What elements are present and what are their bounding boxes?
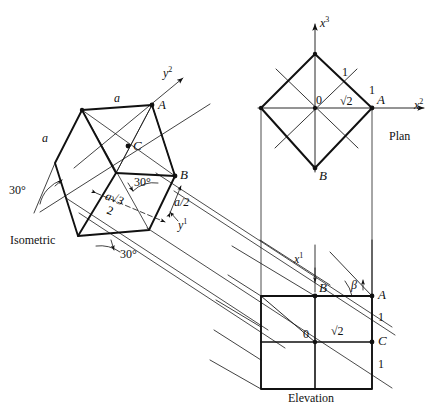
vertex-A-dot: [150, 103, 155, 108]
cube-face-diagonals: [82, 105, 175, 230]
iso-angle-bottom-label: 30°: [120, 248, 137, 260]
elevation-axis-x1-superscript: 1: [299, 251, 303, 260]
plan-view-title: Plan: [389, 130, 410, 142]
angle-arc-bottom: [96, 246, 120, 252]
vertex-C-dot: [126, 144, 131, 149]
elevation-unit-upper-label: 1: [378, 311, 384, 323]
elevation-axis-x1-label: x1: [294, 252, 303, 265]
axis-y2-line: [74, 78, 183, 168]
elevation-view-title: Elevation: [288, 392, 334, 404]
plan-axis-x2-label: x2: [414, 98, 423, 111]
iso-dim-a-half-label: a/2: [174, 196, 189, 208]
elevation-vertex-C-dot: [370, 340, 375, 345]
plan-unit-right-label: 1: [369, 84, 375, 96]
elevation-origin-label: 0: [303, 328, 309, 340]
plan-view: [258, 24, 424, 296]
iso-vertex-C-label: C: [133, 139, 142, 152]
elevation-origin-dot: [313, 340, 317, 344]
iso-axis-y1-superscript: 1: [183, 217, 187, 226]
elevation-vertex-A-label: A: [378, 288, 386, 301]
elevation-vertex-B-label: B: [319, 281, 327, 294]
elevation-unit-lower-label: 1: [378, 358, 384, 370]
elevation-beta-label: β: [351, 279, 357, 291]
plan-axis-x3-label: x3: [320, 16, 329, 29]
iso-axis-y2-label: y2: [163, 66, 172, 79]
plan-vertex-A-label: A: [377, 93, 385, 106]
elevation-vertex-C-label: C: [378, 334, 387, 347]
elevation-vertex-A-dot: [370, 294, 375, 299]
figure-canvas: a a A B C 30° 30° 30° a/2 a√3 2 y2 y1 Is…: [0, 0, 447, 413]
iso-edge-a-left-label: a: [42, 132, 48, 144]
plan-diagonal-label: √2: [340, 95, 353, 107]
elevation-vertex-B-dot: [313, 294, 318, 299]
iso-axis-y2-superscript: 2: [168, 65, 172, 74]
elevation-projection-rays: [210, 240, 330, 389]
iso-angle-left-label: 30°: [9, 184, 26, 196]
isometric-view-title: Isometric: [10, 234, 55, 246]
plan-unit-upper-label: 1: [342, 66, 348, 78]
plan-vertex-A-dot: [370, 106, 375, 111]
plan-drop-lines: [261, 108, 372, 296]
iso-axis-y1-label: y1: [178, 218, 187, 231]
iso-vertex-A-label: A: [158, 98, 166, 111]
angle-arc-arrows: [55, 180, 133, 250]
plan-axis-x3-superscript: 3: [325, 15, 329, 24]
plan-vertex-B-label: B: [319, 169, 327, 182]
iso-edge-a-top-label: a: [114, 92, 120, 104]
iso-vertex-B-label: B: [180, 168, 188, 181]
y1-leader: [170, 212, 178, 221]
iso-angle-middle-label: 30°: [134, 176, 151, 188]
elevation-diagonal-label: √2: [331, 325, 344, 337]
plan-vertex-B-dot: [313, 166, 318, 171]
plan-axis-x2-superscript: 2: [419, 97, 423, 106]
plan-origin-label: 0: [316, 94, 322, 106]
technical-drawing: [0, 0, 447, 413]
vertex-B-dot: [173, 174, 178, 179]
